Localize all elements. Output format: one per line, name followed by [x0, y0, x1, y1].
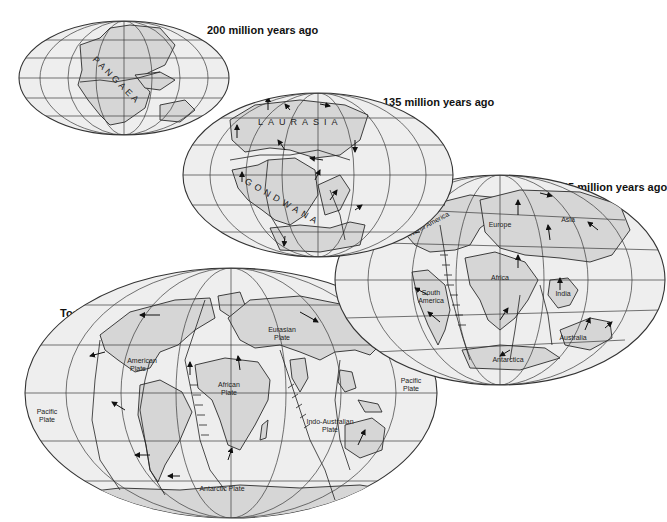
label-asia: Asia — [561, 216, 575, 223]
label-antarctica: Antarctica — [492, 356, 523, 363]
map-200-mya: PANGAEA — [19, 21, 229, 135]
svg-text:Plate: Plate — [221, 389, 237, 396]
svg-text:Plate: Plate — [130, 365, 146, 372]
label-eurasian-plate: Eurasian — [268, 326, 296, 333]
label-antarctic-plate: Antarctic Plate — [199, 485, 244, 492]
label-indo-australian-plate: Indo-Australian — [306, 418, 353, 425]
svg-text:Plate: Plate — [322, 426, 338, 433]
label-laurasia: LAURASIA — [258, 117, 343, 127]
label-south-america: South — [422, 289, 440, 296]
label-american-plate: American — [127, 357, 157, 364]
map-135-mya: LAURASIA GONDWANA — [183, 93, 453, 257]
svg-text:Plate: Plate — [39, 416, 55, 423]
label-europe: Europe — [489, 221, 512, 229]
svg-text:Plate: Plate — [403, 385, 419, 392]
svg-text:Plate: Plate — [274, 334, 290, 341]
label-africa: Africa — [491, 274, 509, 281]
label-pacific-plate-west: Pacific — [37, 408, 58, 415]
svg-text:America: America — [418, 297, 444, 304]
label-african-plate: African — [218, 381, 240, 388]
label-australia: Australia — [559, 334, 586, 341]
label-pacific-plate-east: Pacific — [401, 377, 422, 384]
label-india: India — [555, 290, 570, 297]
